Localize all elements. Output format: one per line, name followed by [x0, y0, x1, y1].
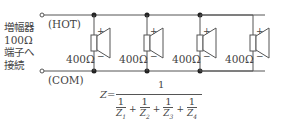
speaker-2-impedance: 400Ω	[119, 53, 148, 65]
hot-label: (HOT)	[48, 18, 81, 30]
amp-line-1: 増幅器	[4, 21, 34, 34]
amp-line-4: 接続	[4, 59, 34, 72]
speaker-4-impedance: 400Ω	[225, 53, 254, 65]
speaker-3-impedance: 400Ω	[172, 53, 201, 65]
speaker-1-minus: −	[97, 50, 105, 62]
fraction-bar	[116, 94, 202, 95]
speaker-3-minus: −	[203, 50, 211, 62]
amplifier-label: 増幅器 100Ω 端子へ 接続	[4, 21, 34, 71]
speaker-1-plus: +	[97, 25, 105, 37]
speaker-1-impedance: 400Ω	[66, 53, 95, 65]
amp-line-2: 100Ω	[4, 34, 34, 47]
speaker-3-plus: +	[203, 25, 211, 37]
amp-line-3: 端子へ	[4, 46, 34, 59]
com-label: (COM)	[48, 74, 84, 86]
speaker-2-plus: +	[150, 25, 158, 37]
speaker-4-minus: −	[256, 50, 264, 62]
speaker-4-plus: +	[256, 25, 264, 37]
speaker-2-minus: −	[150, 50, 158, 62]
impedance-formula: Z= 1 1Z1 + 1Z2 + 1Z3 + 1Z4	[100, 80, 210, 128]
formula-lhs: Z=	[100, 89, 115, 100]
formula-numerator: 1	[158, 79, 164, 90]
formula-denominator: 1Z1 + 1Z2 + 1Z3 + 1Z4	[116, 96, 197, 122]
